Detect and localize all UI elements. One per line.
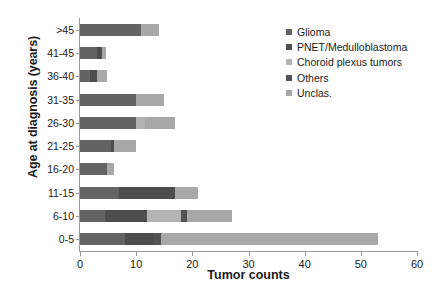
- y-tick-label: 0-5: [24, 234, 74, 245]
- legend-label: Others: [297, 72, 329, 84]
- x-tick-mark: [305, 251, 306, 256]
- legend-item[interactable]: PNET/Medulloblastoma: [286, 39, 407, 54]
- bar-row: 16-20: [80, 163, 417, 175]
- y-tick-label: 16-20: [24, 164, 74, 175]
- bar-row: 21-25: [80, 140, 417, 152]
- bar-segment[interactable]: [114, 140, 136, 152]
- bar-segment[interactable]: [119, 187, 175, 199]
- bar-segment[interactable]: [80, 210, 105, 222]
- bar-segment[interactable]: [80, 233, 125, 245]
- bar-segment[interactable]: [80, 47, 97, 59]
- legend-swatch-icon: [286, 59, 292, 65]
- bar-row: 26-30: [80, 117, 417, 129]
- legend-item[interactable]: Unclas.: [286, 86, 407, 101]
- y-tick-label: 41-45: [24, 48, 74, 59]
- bar-row: 6-10: [80, 210, 417, 222]
- stacked-bar[interactable]: [80, 117, 175, 129]
- bar-row: 11-15: [80, 187, 417, 199]
- x-axis-title: Tumor counts: [80, 268, 417, 282]
- y-tick-label: 11-15: [24, 188, 74, 199]
- legend-swatch-icon: [286, 29, 292, 35]
- bar-segment[interactable]: [80, 94, 136, 106]
- bar-row: 0-5: [80, 233, 417, 245]
- y-tick-label: 31-35: [24, 95, 74, 106]
- stacked-bar[interactable]: [80, 70, 107, 82]
- y-tick-label: 26-30: [24, 118, 74, 129]
- legend-label: Glioma: [297, 26, 330, 38]
- bar-segment[interactable]: [105, 210, 147, 222]
- stacked-bar[interactable]: [80, 210, 232, 222]
- bar-segment[interactable]: [136, 94, 164, 106]
- bar-segment[interactable]: [80, 70, 90, 82]
- bar-segment[interactable]: [141, 24, 158, 36]
- y-tick-label: 6-10: [24, 211, 74, 222]
- bar-segment[interactable]: [90, 70, 97, 82]
- legend-swatch-icon: [286, 90, 292, 96]
- bar-segment[interactable]: [125, 233, 153, 245]
- stacked-bar[interactable]: [80, 47, 106, 59]
- stacked-bar[interactable]: [80, 187, 198, 199]
- y-tick-label: 21-25: [24, 141, 74, 152]
- x-tick-mark: [192, 251, 193, 256]
- x-tick-mark: [80, 251, 81, 256]
- x-tick-mark: [417, 251, 418, 256]
- bar-segment[interactable]: [147, 210, 181, 222]
- bar-segment[interactable]: [136, 117, 144, 129]
- legend-label: Choroid plexus tumors: [297, 56, 402, 68]
- bar-segment[interactable]: [161, 233, 377, 245]
- bar-segment[interactable]: [153, 233, 161, 245]
- bar-segment[interactable]: [102, 47, 106, 59]
- bar-segment[interactable]: [145, 117, 176, 129]
- legend-item[interactable]: Choroid plexus tumors: [286, 55, 407, 70]
- bar-segment[interactable]: [80, 140, 111, 152]
- stacked-bar-chart: Age at diagnosis (years) 01020304050600-…: [0, 0, 437, 292]
- stacked-bar[interactable]: [80, 24, 159, 36]
- bar-segment[interactable]: [187, 210, 232, 222]
- bar-segment[interactable]: [80, 117, 136, 129]
- legend-swatch-icon: [286, 44, 292, 50]
- stacked-bar[interactable]: [80, 163, 114, 175]
- stacked-bar[interactable]: [80, 140, 136, 152]
- bar-segment[interactable]: [80, 163, 107, 175]
- bar-segment[interactable]: [97, 70, 107, 82]
- y-tick-label: >45: [24, 25, 74, 36]
- bar-segment[interactable]: [80, 187, 119, 199]
- bar-segment[interactable]: [80, 24, 141, 36]
- legend-item[interactable]: Others: [286, 70, 407, 85]
- legend-item[interactable]: Glioma: [286, 24, 407, 39]
- y-tick-label: 36-40: [24, 71, 74, 82]
- stacked-bar[interactable]: [80, 94, 164, 106]
- x-tick-mark: [249, 251, 250, 256]
- stacked-bar[interactable]: [80, 233, 378, 245]
- legend-swatch-icon: [286, 75, 292, 81]
- legend-label: PNET/Medulloblastoma: [297, 41, 407, 53]
- x-tick-mark: [361, 251, 362, 256]
- bar-segment[interactable]: [107, 163, 114, 175]
- bar-segment[interactable]: [175, 187, 197, 199]
- legend-label: Unclas.: [297, 87, 332, 99]
- chart-legend: GliomaPNET/MedulloblastomaChoroid plexus…: [286, 24, 407, 101]
- x-tick-mark: [136, 251, 137, 256]
